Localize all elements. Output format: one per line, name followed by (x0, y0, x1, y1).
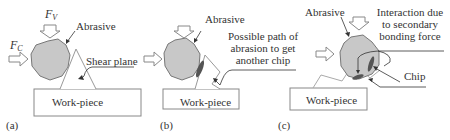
caption-b: (b) (160, 119, 173, 131)
force-cutting-arrow-b (144, 52, 162, 66)
caption-a: (a) (6, 119, 18, 131)
force-vertical-arrow-c (349, 17, 369, 30)
abrasion-path-label: Possible path of abrasion to get another… (228, 30, 298, 66)
workpiece-label-a: Work-piece (52, 96, 103, 108)
workpiece-label-c: Work-piece (306, 94, 357, 106)
shear-plane-label: Shear plane (86, 55, 138, 67)
abrasive-label-c: Abrasive (305, 6, 345, 18)
force-vertical-arrow (40, 25, 60, 38)
force-cutting-label: FC (10, 39, 23, 55)
abrasive-grain-b (164, 38, 200, 80)
abrasive-label-a: Abrasive (76, 20, 116, 32)
caption-c: (c) (278, 119, 290, 131)
abrasive-grain-a (31, 39, 70, 80)
force-vertical-label: FV (45, 8, 57, 24)
interaction-label: Interaction due to secondary bonding for… (372, 6, 448, 42)
chip-label: Chip (404, 70, 425, 82)
workpiece-label-b: Work-piece (180, 96, 231, 108)
force-vertical-arrow-b (174, 26, 194, 38)
abrasive-label-b: Abrasive (205, 13, 245, 25)
force-cutting-arrow-c (316, 47, 334, 61)
